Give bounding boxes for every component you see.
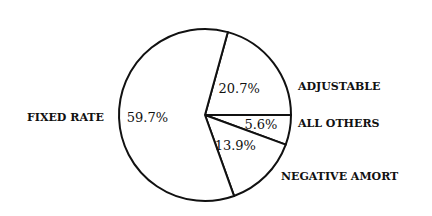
value-label-fixed-rate: 59.7% xyxy=(127,110,168,125)
pie-chart: 20.7% 5.6% 13.9% 59.7% ADJUSTABLE ALL OT… xyxy=(0,0,432,216)
value-label-all-others: 5.6% xyxy=(244,117,277,132)
value-label-adjustable: 20.7% xyxy=(219,81,260,96)
value-label-negative-amort: 13.9% xyxy=(215,138,256,153)
category-label-all-others: ALL OTHERS xyxy=(297,117,380,130)
category-label-adjustable: ADJUSTABLE xyxy=(297,80,380,93)
category-label-negative-amort: NEGATIVE AMORT xyxy=(281,170,399,183)
category-label-fixed-rate: FIXED RATE xyxy=(27,111,104,124)
